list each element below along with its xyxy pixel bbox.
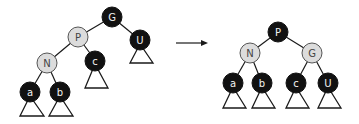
svg-text:a: a bbox=[27, 87, 33, 98]
svg-text:P: P bbox=[75, 32, 81, 43]
node-P: P bbox=[268, 22, 288, 42]
svg-text:N: N bbox=[43, 58, 50, 69]
node-a: a bbox=[20, 82, 40, 102]
node-G: G bbox=[302, 43, 322, 63]
node-N: N bbox=[37, 53, 57, 73]
svg-text:b: b bbox=[259, 78, 265, 89]
before-tree: G P U N c a b bbox=[20, 7, 153, 116]
after-tree: P N G a b c U bbox=[223, 22, 341, 108]
svg-text:b: b bbox=[57, 87, 63, 98]
node-P: P bbox=[68, 27, 88, 47]
svg-text:G: G bbox=[308, 48, 316, 59]
arrowhead-icon bbox=[201, 40, 208, 46]
node-b: b bbox=[252, 73, 272, 93]
svg-text:P: P bbox=[275, 27, 281, 38]
node-a: a bbox=[223, 73, 243, 93]
node-c: c bbox=[85, 51, 105, 71]
svg-text:U: U bbox=[136, 35, 143, 46]
svg-text:N: N bbox=[246, 48, 253, 59]
node-U: U bbox=[318, 73, 338, 93]
svg-text:G: G bbox=[108, 12, 116, 23]
node-c: c bbox=[286, 73, 306, 93]
node-U: U bbox=[130, 30, 150, 50]
svg-text:c: c bbox=[293, 78, 299, 89]
tree-rotation-diagram: G P U N c a b bbox=[0, 0, 359, 124]
svg-text:U: U bbox=[324, 78, 331, 89]
svg-text:c: c bbox=[92, 56, 98, 67]
node-G: G bbox=[102, 7, 122, 27]
svg-text:a: a bbox=[230, 78, 236, 89]
node-N: N bbox=[240, 43, 260, 63]
transform-arrow bbox=[176, 40, 208, 46]
node-b: b bbox=[50, 82, 70, 102]
